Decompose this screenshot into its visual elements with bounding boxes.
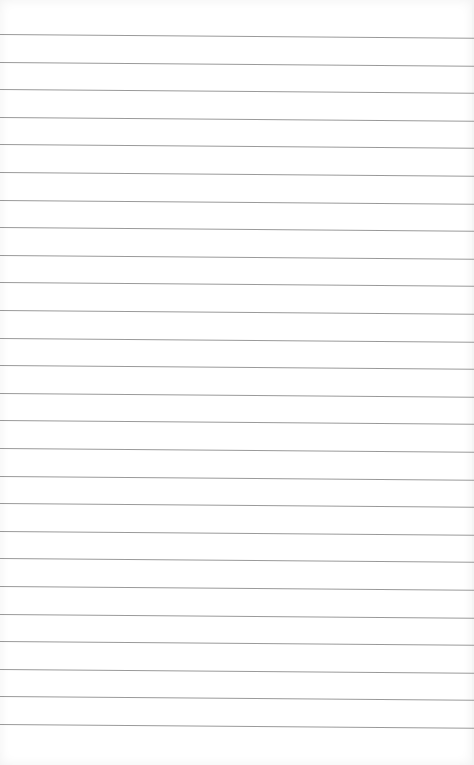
ruled-line <box>0 641 474 646</box>
ruled-line <box>0 227 474 232</box>
ruled-line <box>0 558 474 563</box>
ruled-line <box>0 448 474 453</box>
ruled-line <box>0 393 474 398</box>
ruled-line <box>0 586 474 591</box>
ruled-line <box>0 117 474 122</box>
ruled-line <box>0 282 474 287</box>
ruled-line <box>0 503 474 508</box>
ruled-line <box>0 310 474 315</box>
ruled-line <box>0 669 474 674</box>
ruled-line <box>0 172 474 177</box>
ruled-line <box>0 476 474 481</box>
ruled-line <box>0 338 474 343</box>
ruled-line <box>0 614 474 619</box>
ruled-line <box>0 89 474 94</box>
ruled-line <box>0 62 474 67</box>
ruled-line <box>0 200 474 205</box>
ruled-line <box>0 255 474 260</box>
ruled-line <box>0 144 474 149</box>
ruled-line <box>0 420 474 425</box>
ruled-line <box>0 531 474 536</box>
ruled-line <box>0 724 474 729</box>
ruled-line <box>0 696 474 701</box>
ruled-line <box>0 365 474 370</box>
ruled-line <box>0 34 474 39</box>
